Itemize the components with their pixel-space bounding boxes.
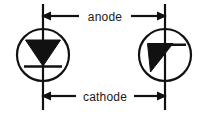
- anode-label: anode: [88, 10, 122, 24]
- diode-diagram: anode cathode: [0, 0, 206, 114]
- diode-diagram-canvas: anode cathode: [0, 0, 206, 114]
- cathode-label: cathode: [83, 90, 127, 104]
